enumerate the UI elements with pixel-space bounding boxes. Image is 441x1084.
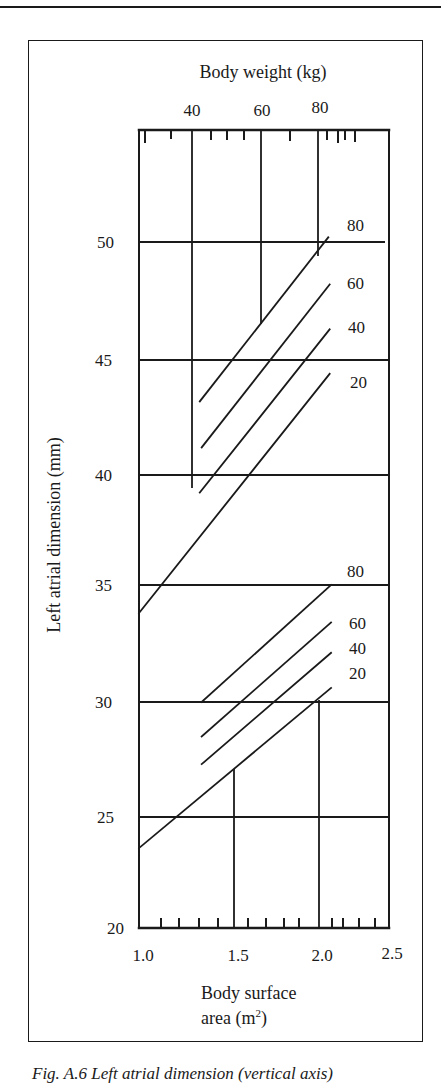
figure-caption: Fig. A.6 Left atrial dimension (vertical… [32,1064,333,1084]
series-label-20: 20 [350,373,367,392]
top-tick-60: 60 [254,101,271,120]
y-tick-35: 35 [95,576,112,595]
y-tick-labels: 50 45 40 35 30 25 20 [95,233,124,938]
series-label-60: 60 [347,274,364,293]
y-tick-20: 20 [107,919,124,938]
y-tick-45: 45 [95,351,112,370]
series-lower-limit-60 [202,622,331,736]
y-tick-40: 40 [95,466,112,485]
x-axis-title-line1: Body surface [201,983,296,1003]
series-lower-limit-20 [139,688,331,848]
series-upper-limit-80 [200,237,328,401]
x-tick-2-0: 2.0 [311,946,332,965]
y-tick-50: 50 [97,233,114,252]
y-tick-25: 25 [97,808,114,827]
series-upper-limit-60 [202,284,330,447]
y-axis-title: Left atrial dimension (mm) [44,437,65,632]
series-label-20: 20 [349,664,366,683]
plot-area: 8060402080604020 [139,130,389,928]
x-tick-labels: 1.0 1.5 2.0 2.5 [132,944,402,965]
series-lower-limit-40 [202,653,331,764]
series-label-80: 80 [347,562,364,581]
x-tick-1-5: 1.5 [227,946,248,965]
top-axis-title: Body weight (kg) [200,62,327,83]
series-upper-limit-20 [139,374,330,613]
top-tick-40: 40 [184,101,201,120]
top-tick-80: 80 [312,98,329,117]
y-tick-30: 30 [95,693,112,712]
series-upper-limit-40 [200,329,330,492]
x-tick-1-0: 1.0 [132,946,153,965]
series-lower-limit-80 [202,585,331,702]
x-tick-2-5: 2.5 [381,944,402,963]
series-label-40: 40 [349,639,366,658]
series-label-80: 80 [347,216,364,235]
x-axis-title-line2: area (m2) [201,1007,267,1029]
series-label-40: 40 [348,318,365,337]
series-label-60: 60 [349,614,366,633]
